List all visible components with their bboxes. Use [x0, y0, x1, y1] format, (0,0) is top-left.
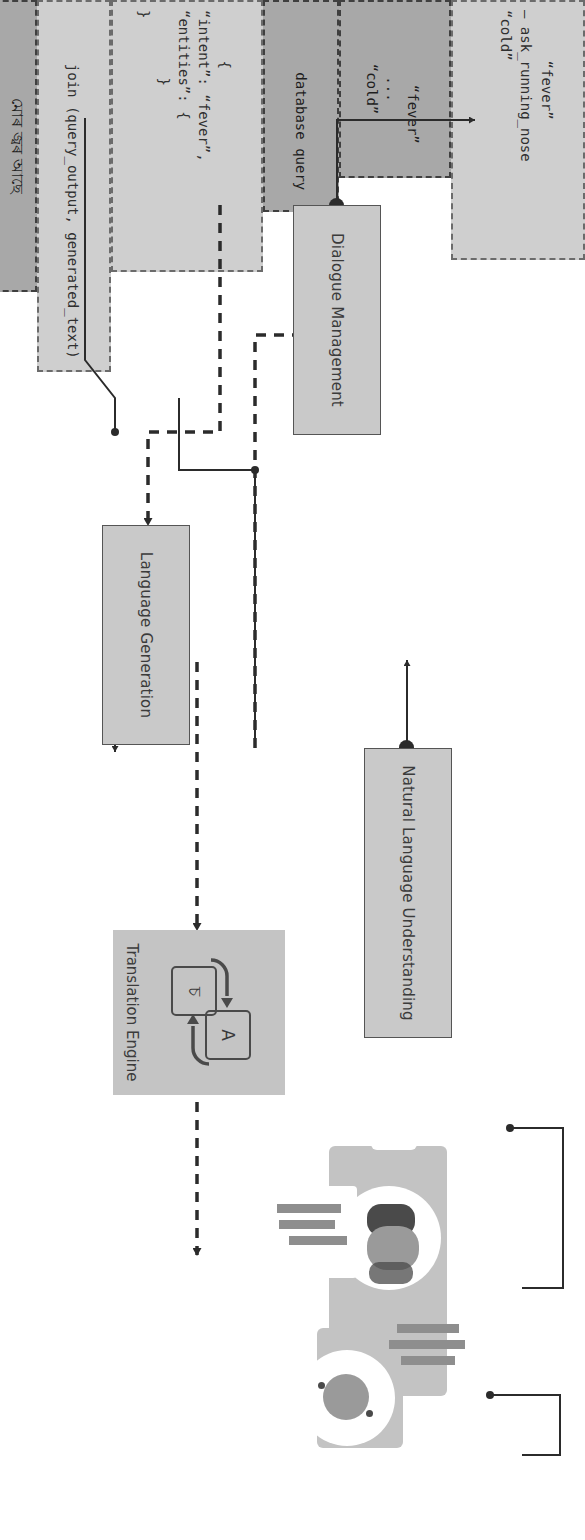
translate-arrows-icon	[171, 952, 251, 1072]
process-translation-engine[interactable]: A চ Translation Engine	[113, 930, 285, 1095]
translate-icon: A চ	[173, 952, 251, 1072]
avatar-right-head	[323, 1374, 369, 1420]
two-person-chat-illustration	[265, 1128, 465, 1458]
process-dialogue-management-label: Dialogue Management	[328, 233, 346, 407]
diagram-page: “fever” – ask_running_nose “cold” “fever…	[0, 0, 585, 1540]
message-bar-5	[279, 1220, 335, 1229]
process-nlu[interactable]: Natural Language Understanding	[364, 748, 452, 1038]
process-nlu-label: Natural Language Understanding	[399, 765, 417, 1020]
process-language-generation[interactable]: Language Generation	[102, 525, 190, 745]
edge-list-to-nlu	[179, 398, 255, 748]
edge-dm-to-policy	[337, 120, 475, 205]
illustration-notch-left	[371, 1128, 417, 1150]
message-bar-4	[277, 1204, 341, 1213]
avatar-right-dot-bottom	[318, 1382, 325, 1389]
edge-user-to-te	[510, 1128, 563, 1288]
junction-user	[506, 1124, 514, 1132]
message-bar-6	[289, 1236, 347, 1245]
process-language-generation-label: Language Generation	[137, 552, 155, 718]
avatar-left-shoulder	[369, 1262, 413, 1284]
process-dialogue-management[interactable]: Dialogue Management	[293, 205, 381, 435]
junction-db	[111, 428, 119, 436]
message-bar-2	[389, 1340, 465, 1349]
diagram-canvas: “fever” – ask_running_nose “cold” “fever…	[0, 0, 585, 1540]
message-bar-3	[401, 1356, 455, 1365]
edge-db-to-lg	[85, 118, 115, 432]
edge-dm-to-lg	[148, 205, 220, 525]
junction-response	[486, 1391, 494, 1399]
message-bar-1	[397, 1324, 459, 1333]
junction-list	[251, 466, 259, 474]
edge-response-to-illus	[490, 1395, 560, 1455]
process-translation-engine-label: Translation Engine	[123, 930, 141, 1095]
avatar-right-dot-top	[366, 1410, 373, 1417]
